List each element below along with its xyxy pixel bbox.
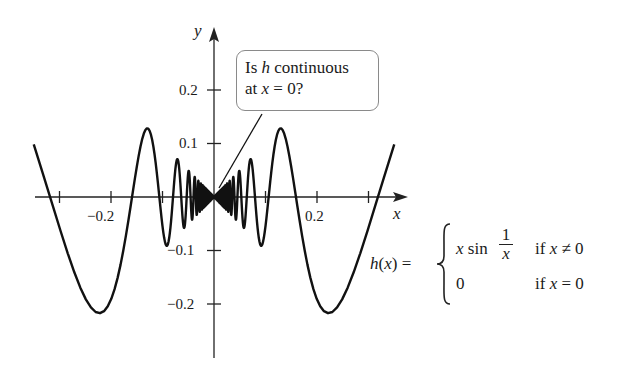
callout-text: Is [245, 58, 262, 77]
fraction-1-over-x: 1 x [499, 226, 513, 263]
callout-text: at [245, 79, 262, 98]
x-tick-label-0.2: 0.2 [305, 209, 324, 224]
x-tick-label-neg-0.2: −0.2 [87, 209, 114, 224]
case-2-condition: if x = 0 [535, 274, 584, 294]
callout-var-h: h [262, 58, 271, 77]
continuity-question-callout: Is h continuous at x = 0? [236, 50, 379, 111]
y-tick-label-0.2: 0.2 [179, 83, 198, 98]
callout-text: continuous [270, 58, 349, 77]
left-brace-icon [436, 222, 452, 306]
formula-lhs: h(x) = [370, 254, 411, 274]
callout-line-2: at x = 0? [245, 78, 378, 99]
case-1-condition: if x ≠ 0 [535, 239, 584, 259]
case-2-expression: 0 [456, 274, 465, 294]
if-text: if [535, 274, 550, 293]
callout-var-x: x [262, 79, 270, 98]
case-1-expression: x sin [456, 239, 488, 259]
paren-equals: ) = [392, 254, 412, 273]
y-tick-label-0.1: 0.1 [179, 136, 198, 151]
var: x [384, 254, 392, 273]
numerator: 1 [499, 226, 513, 244]
callout-line-1: Is h continuous [245, 57, 378, 78]
x-axis-label: x [393, 205, 401, 222]
callout-text: = 0? [269, 79, 303, 98]
condition-text: ≠ 0 [557, 239, 583, 258]
y-axis-label: y [194, 22, 202, 39]
y-tick-label-neg-0.2: −0.2 [167, 297, 194, 312]
fn-name: h [370, 254, 379, 273]
if-text: if [535, 239, 550, 258]
denominator: x [499, 244, 513, 263]
y-tick-label-neg-0.1: −0.1 [167, 243, 194, 258]
var: x [456, 239, 464, 258]
sin-text: sin [464, 239, 488, 258]
condition-text: = 0 [557, 274, 584, 293]
